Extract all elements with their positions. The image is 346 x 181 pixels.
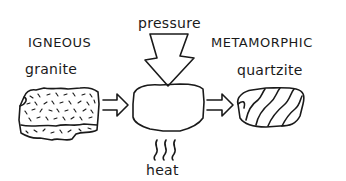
metamorphic-label: METAMORPHIC — [211, 36, 313, 49]
heat-lines-icon — [154, 140, 175, 160]
granite-rock-icon — [19, 88, 99, 140]
right-arrow-icon — [207, 94, 233, 116]
granite-label: granite — [25, 62, 77, 76]
pressure-label: pressure — [138, 16, 201, 30]
right-arrow-icon — [103, 94, 128, 116]
heat-label: heat — [146, 163, 179, 177]
center-rock-icon — [133, 84, 204, 131]
quartzite-rock-icon — [238, 88, 304, 127]
down-arrow-icon — [145, 34, 194, 86]
quartzite-label: quartzite — [237, 63, 303, 77]
igneous-label: IGNEOUS — [28, 36, 91, 49]
diagram-canvas: IGNEOUS granite pressure heat METAMORPHI… — [0, 0, 346, 181]
